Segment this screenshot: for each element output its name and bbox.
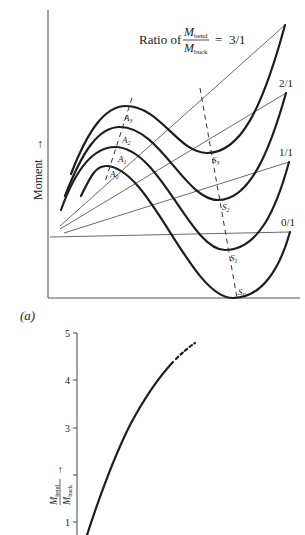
ratio-label-2-1: 2/1 <box>279 77 293 89</box>
svg-text:Mbuck: Mbuck <box>61 485 73 506</box>
ratio-label-0-1: 0/1 <box>281 216 295 228</box>
label-s3: S3 <box>212 155 220 166</box>
label-a2: A2 <box>121 135 131 146</box>
svg-text:Mbend: Mbend <box>183 25 208 40</box>
minima-locus-dashed <box>200 88 237 298</box>
ratio-curve-dashed <box>176 343 195 359</box>
ratio-title: Ratio of Mbend Mbuck = 3/1 <box>139 25 246 56</box>
ratio-curve-solid <box>87 362 173 535</box>
ratio-label-1-1: 1/1 <box>279 146 293 158</box>
panel-a: Moment → Ratio of Mbend Mbuck = 3/1 2/1 … <box>20 10 300 323</box>
label-s1: S1 <box>230 253 238 264</box>
label-a1: A1 <box>117 154 127 165</box>
curve-3-1 <box>71 25 285 174</box>
label-s2: S2 <box>222 202 230 213</box>
svg-text:=: = <box>215 32 222 47</box>
load-line-2-1 <box>60 93 286 229</box>
svg-text:Mbuck: Mbuck <box>183 41 208 56</box>
panel-label-a: (a) <box>20 308 35 323</box>
svg-text:Ratio of: Ratio of <box>139 32 182 47</box>
svg-text:3/1: 3/1 <box>229 32 246 47</box>
panel-b: 5 4 3 1 Mbend Mbuck → <box>48 328 195 535</box>
ratio-axis-label: Mbend Mbuck → <box>48 465 73 506</box>
tick-label-1: 1 <box>65 517 70 528</box>
svg-text:Moment →: Moment → <box>31 138 45 200</box>
tick-label-3: 3 <box>65 423 70 434</box>
svg-text:Mbend: Mbend <box>48 485 60 506</box>
label-a3: A3 <box>123 113 133 124</box>
label-a0: A0 <box>109 169 119 180</box>
diagram-canvas: Moment → Ratio of Mbend Mbuck = 3/1 2/1 … <box>0 0 305 535</box>
curve-2-1 <box>65 93 286 200</box>
svg-text:→: → <box>53 465 64 475</box>
tick-label-5: 5 <box>65 328 70 339</box>
moment-axis-label: Moment → <box>31 138 45 200</box>
label-s0: S0 <box>238 287 246 298</box>
tick-label-4: 4 <box>65 375 70 386</box>
